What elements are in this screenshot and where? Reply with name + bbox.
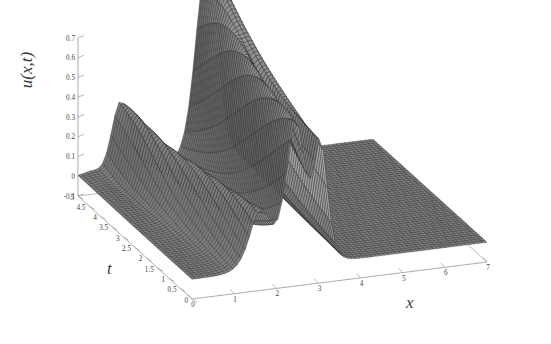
svg-text:1.5: 1.5 bbox=[145, 266, 154, 274]
svg-text:7: 7 bbox=[486, 264, 490, 272]
svg-text:0.1: 0.1 bbox=[66, 153, 75, 161]
svg-text:4.5: 4.5 bbox=[76, 204, 85, 212]
svg-text:3.5: 3.5 bbox=[99, 224, 108, 232]
svg-text:0: 0 bbox=[71, 173, 75, 181]
svg-text:2: 2 bbox=[139, 255, 143, 263]
surface-plot-figure: -0.100.10.20.30.40.50.60.70123456700.511… bbox=[0, 0, 551, 344]
mesh-surface bbox=[78, 0, 487, 279]
svg-text:5: 5 bbox=[402, 275, 406, 283]
svg-text:5: 5 bbox=[70, 194, 74, 202]
svg-text:2: 2 bbox=[275, 290, 279, 298]
svg-text:0: 0 bbox=[184, 297, 188, 305]
svg-text:0.6: 0.6 bbox=[66, 54, 75, 62]
svg-text:6: 6 bbox=[444, 269, 448, 277]
svg-text:3: 3 bbox=[116, 235, 120, 243]
t-axis-label: t bbox=[107, 259, 112, 279]
svg-text:0: 0 bbox=[191, 301, 195, 309]
svg-text:0.7: 0.7 bbox=[66, 35, 75, 43]
svg-text:1: 1 bbox=[233, 296, 237, 304]
svg-text:2.5: 2.5 bbox=[122, 245, 131, 253]
x-axis-label: x bbox=[406, 293, 414, 313]
svg-text:0.4: 0.4 bbox=[66, 94, 75, 102]
svg-text:0.3: 0.3 bbox=[66, 114, 75, 122]
svg-text:3: 3 bbox=[318, 285, 322, 293]
z-axis-label: u(x,t) bbox=[17, 57, 37, 83]
svg-text:4: 4 bbox=[360, 280, 364, 288]
svg-text:0.2: 0.2 bbox=[66, 133, 75, 141]
svg-text:0.5: 0.5 bbox=[66, 74, 75, 82]
svg-text:0.5: 0.5 bbox=[168, 286, 177, 294]
svg-text:4: 4 bbox=[93, 214, 97, 222]
surface-plot-canvas: -0.100.10.20.30.40.50.60.70123456700.511… bbox=[0, 0, 551, 344]
svg-text:1: 1 bbox=[162, 276, 166, 284]
